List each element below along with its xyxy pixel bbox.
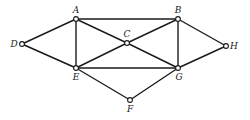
node-C — [125, 41, 130, 46]
node-G — [176, 66, 181, 71]
node-D — [20, 42, 25, 47]
graph-labels: ABCDEFGH — [9, 5, 238, 114]
edge-A-C — [76, 19, 127, 43]
node-F — [128, 98, 133, 103]
edge-C-G — [127, 43, 178, 68]
node-A — [74, 17, 79, 22]
edge-E-F — [76, 68, 130, 100]
node-label-F: F — [126, 104, 134, 114]
node-label-C: C — [124, 29, 131, 39]
node-label-H: H — [229, 41, 238, 51]
node-label-G: G — [175, 72, 182, 82]
edge-D-E — [22, 44, 76, 68]
node-E — [74, 66, 79, 71]
node-label-A: A — [72, 5, 80, 15]
node-B — [176, 17, 181, 22]
edge-G-H — [178, 46, 226, 68]
node-label-B: B — [174, 5, 182, 15]
node-label-D: D — [9, 39, 17, 49]
graph-diagram: ABCDEFGH — [0, 0, 250, 120]
edge-F-G — [130, 68, 178, 100]
edge-B-C — [127, 19, 178, 43]
node-H — [224, 44, 229, 49]
edge-B-H — [178, 19, 226, 46]
node-label-E: E — [72, 72, 80, 82]
edge-A-D — [22, 19, 76, 44]
edge-C-E — [76, 43, 127, 68]
